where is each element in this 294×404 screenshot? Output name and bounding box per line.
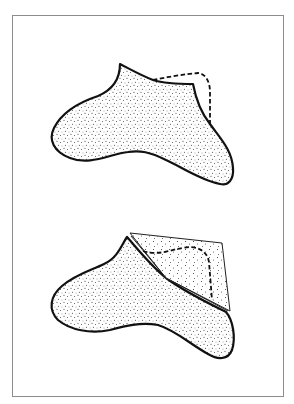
top-stippled-shape — [52, 64, 233, 184]
top-panel — [52, 64, 233, 184]
bottom-panel — [52, 233, 234, 358]
illustration — [0, 0, 294, 404]
